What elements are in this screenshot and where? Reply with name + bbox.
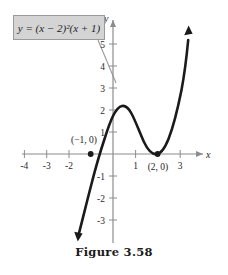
- x-tick-label: -4: [20, 161, 28, 171]
- y-tick-label: 3: [100, 84, 105, 94]
- equation-label: y = (x − 2)²(x + 1): [14, 16, 104, 39]
- function-curve: [74, 26, 192, 242]
- annotation-point-2-0: (2, 0): [148, 162, 169, 173]
- y-tick-label: 4: [100, 62, 105, 72]
- x-tick-label: -3: [43, 161, 51, 171]
- y-tick-label: -2: [97, 194, 105, 204]
- curve-arrow-up: [184, 26, 192, 36]
- figure-caption-wrapper: Figure 3.58: [0, 242, 228, 260]
- figure-container: x y -4 -3 -2 1 3: [0, 0, 228, 275]
- y-tick-labels: 5 4 3 2 1 -1 -2 -3: [97, 40, 105, 226]
- y-tick-label: -1: [97, 172, 105, 182]
- y-tick-label: 2: [100, 106, 105, 116]
- y-tick-label: 5: [100, 40, 105, 50]
- equation-callout-box: y = (x − 2)²(x + 1): [13, 15, 105, 40]
- x-axis-arrow: [196, 151, 203, 157]
- point-marker-x-intercept-2: [155, 151, 161, 157]
- x-tick-label: -2: [65, 161, 73, 171]
- figure-caption: Figure 3.58: [75, 245, 153, 259]
- x-axis-label: x: [205, 149, 211, 160]
- point-marker-x-intercept-neg1: [88, 151, 94, 157]
- y-axis-arrow: [110, 20, 116, 27]
- annotation-point-neg1-0: (−1, 0): [71, 135, 97, 146]
- x-tick-label: 3: [178, 161, 183, 171]
- curve-arrow-down: [74, 232, 82, 242]
- x-axis: x: [22, 149, 211, 160]
- x-tick-label: 1: [133, 161, 138, 171]
- y-tick-label: -3: [97, 216, 105, 226]
